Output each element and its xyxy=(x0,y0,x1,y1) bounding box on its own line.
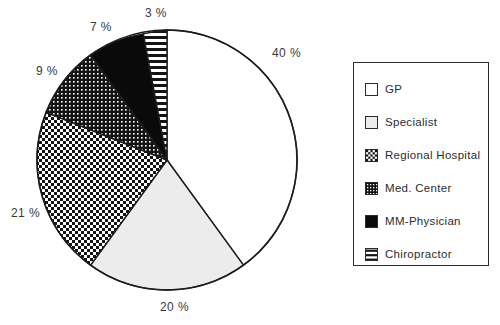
white-square-icon xyxy=(365,83,378,96)
legend-label-mm-physician: MM-Physician xyxy=(385,215,461,227)
legend-item-regional-hospital[interactable]: Regional Hospital xyxy=(365,140,482,170)
legend-list: GP Specialist xyxy=(365,74,482,257)
legend-label-gp: GP xyxy=(385,83,402,95)
slice-label-regional-hospital: 21 % xyxy=(11,206,40,220)
legend: GP Specialist xyxy=(353,62,489,266)
legend-label-regional-hospital: Regional Hospital xyxy=(385,149,480,161)
legend-item-gp[interactable]: GP xyxy=(365,74,482,104)
slice-label-chiropractor: 3 % xyxy=(145,6,167,20)
legend-label-med-center: Med. Center xyxy=(385,182,452,194)
slice-label-med-center: 9 % xyxy=(36,64,58,78)
solid-black-square-icon xyxy=(365,215,378,228)
legend-label-specialist: Specialist xyxy=(385,116,437,128)
legend-item-med-center[interactable]: Med. Center xyxy=(365,173,482,203)
dense-grid-square-icon xyxy=(365,182,378,195)
legend-label-chiropractor: Chiropractor xyxy=(385,248,452,260)
slice-label-gp: 40 % xyxy=(272,46,301,60)
slice-label-specialist: 20 % xyxy=(160,300,189,314)
light-gray-square-icon xyxy=(365,116,378,129)
checkerboard-square-icon xyxy=(365,149,378,162)
legend-item-mm-physician[interactable]: MM-Physician xyxy=(365,206,482,236)
slice-label-mm-physician: 7 % xyxy=(90,20,112,34)
legend-item-specialist[interactable]: Specialist xyxy=(365,107,482,137)
pie-chart-area: 40 % 20 % 21 % 9 % 7 % 3 % xyxy=(0,0,340,325)
pie-chart-figure: 40 % 20 % 21 % 9 % 7 % 3 % GP Specialist xyxy=(0,0,500,325)
horizontal-stripes-square-icon xyxy=(365,248,378,261)
legend-item-chiropractor[interactable]: Chiropractor xyxy=(365,239,482,269)
